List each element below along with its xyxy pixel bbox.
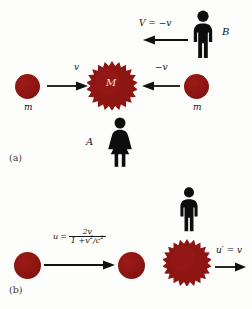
observer-b-label: B	[222, 27, 229, 37]
left-particle-a-mass-label: m	[24, 103, 33, 112]
panel-b-velocity-label: u′ = v	[216, 246, 242, 255]
left-particle-a-velocity-label: v	[74, 63, 79, 72]
right-particle-a-velocity-arrow	[141, 80, 181, 92]
physics-figure: B V = −v m v M m −v	[0, 0, 252, 309]
formula-fraction: 2v 1 +v2/c2	[69, 228, 106, 246]
panel-b-right-velocity-arrow	[215, 261, 247, 273]
panel-b-source-particle	[14, 252, 41, 279]
right-particle-a-mass-label: m	[193, 103, 202, 112]
formula-denominator-lead: 1 +	[71, 236, 85, 245]
panel-b-velocity-arrow	[44, 259, 116, 271]
right-particle-a	[184, 74, 209, 99]
panel-b-observer-figure	[175, 186, 203, 232]
right-particle-a-velocity-label: −v	[155, 63, 168, 72]
center-body-a-mass-label: M	[106, 78, 116, 88]
observer-a-figure	[105, 117, 135, 167]
left-particle-a-velocity-arrow	[47, 80, 89, 92]
panel-a-label: (a)	[9, 152, 22, 163]
formula-den-den-exp: 2	[100, 235, 103, 241]
formula-lhs: u	[53, 233, 58, 241]
formula-denominator: 1 +v2/c2	[69, 236, 106, 245]
formula-equals: =	[60, 233, 67, 241]
panel-b-velocity-addition-formula: u = 2v 1 +v2/c2	[53, 228, 106, 246]
panel-b-target-particle	[118, 252, 145, 279]
left-particle-a	[15, 74, 40, 99]
observer-b-figure	[188, 10, 218, 58]
observer-a-label: A	[86, 137, 93, 147]
panel-b-center-body	[163, 238, 211, 286]
observer-b-velocity-arrow	[141, 34, 189, 46]
formula-den-num-exp: 2	[90, 235, 93, 241]
observer-b-velocity-label: V = −v	[139, 19, 171, 28]
panel-b-label: (b)	[9, 284, 23, 295]
